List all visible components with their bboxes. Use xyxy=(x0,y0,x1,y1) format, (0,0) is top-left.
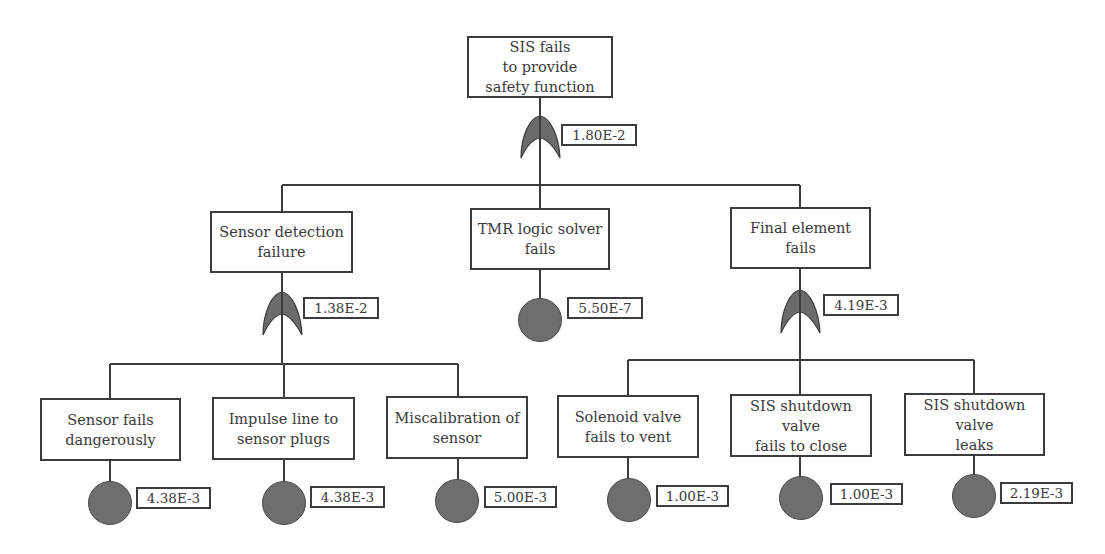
solenoid-valve-probability: 1.00E-3 xyxy=(656,485,729,507)
basic-event-circle-icon xyxy=(779,476,823,520)
sensor-detection-failure-box: Sensor detection failure xyxy=(210,211,353,273)
basic-event-circle-icon xyxy=(435,479,479,523)
basic-event-circle-icon xyxy=(88,481,132,525)
top-event-probability: 1.80E-2 xyxy=(561,124,637,146)
impulse-line-box: Impulse line to sensor plugs xyxy=(212,397,355,460)
shutdown-valve-leaks-probability: 2.19E-3 xyxy=(1000,482,1073,504)
shutdown-valve-leaks-box: SIS shutdown valve leaks xyxy=(904,393,1045,456)
final-element-probability: 4.19E-3 xyxy=(823,294,899,316)
tmr-logic-solver-box: TMR logic solver fails xyxy=(470,208,610,270)
basic-event-circle-icon xyxy=(607,478,651,522)
solenoid-valve-box: Solenoid valve fails to vent xyxy=(557,395,699,458)
miscalibration-probability: 5.00E-3 xyxy=(484,486,557,508)
sensor-detection-probability: 1.38E-2 xyxy=(303,297,379,319)
tmr-logic-solver-probability: 5.50E-7 xyxy=(567,297,643,319)
top-event-box: SIS fails to provide safety function xyxy=(467,36,613,98)
basic-event-circle-icon xyxy=(262,481,306,525)
miscalibration-box: Miscalibration of sensor xyxy=(386,396,528,459)
basic-event-circle-icon xyxy=(952,474,996,518)
final-element-fails-box: Final element fails xyxy=(730,207,871,269)
impulse-line-probability: 4.38E-3 xyxy=(310,486,385,508)
shutdown-valve-fails-to-close-box: SIS shutdown valve fails to close xyxy=(730,394,872,457)
sensor-fails-dangerously-box: Sensor fails dangerously xyxy=(40,398,181,461)
shutdown-valve-fails-to-close-probability: 1.00E-3 xyxy=(830,483,903,505)
basic-event-circle-icon xyxy=(518,298,562,342)
sensor-fails-dangerously-probability: 4.38E-3 xyxy=(136,487,211,509)
